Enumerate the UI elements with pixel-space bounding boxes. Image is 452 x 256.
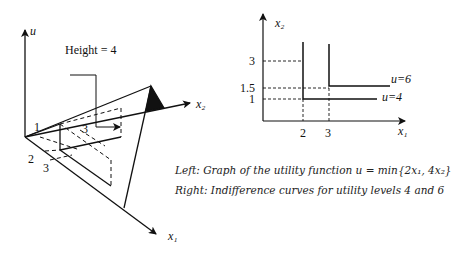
guide-lines — [263, 61, 329, 121]
ytick-1: 1 — [249, 92, 255, 106]
curve-u6-label: u=6 — [391, 72, 411, 86]
tick-2: 2 — [28, 152, 34, 166]
x1-label-right: x₁ — [397, 124, 408, 138]
xtick-3: 3 — [325, 126, 331, 140]
x1-axis-label: x₁ — [167, 229, 178, 243]
caption-right: Right: Indifference curves for utility l… — [175, 184, 444, 196]
level-x2-line — [60, 137, 121, 150]
x2-axis — [25, 103, 190, 137]
tick-3: 3 — [43, 161, 49, 175]
u-axis-label: u — [30, 24, 36, 38]
ridge-shaded-face — [146, 86, 164, 111]
x2-label-right: x₂ — [274, 16, 285, 30]
ytick-3: 3 — [249, 54, 255, 68]
indifference-plot — [263, 14, 405, 121]
caption-left: Left: Graph of the utility function u = … — [175, 164, 452, 176]
curve-u6 — [329, 44, 390, 86]
curve-u4-label: u=4 — [382, 90, 402, 104]
curve-u4 — [303, 42, 377, 99]
utility-3d-graph — [25, 30, 190, 234]
x2-axis-label: x₂ — [195, 97, 206, 111]
xtick-2: 2 — [300, 126, 306, 140]
inner-tick-3: 3 — [82, 122, 88, 136]
height-label: Height = 4 — [65, 43, 116, 57]
tick-1: 1 — [34, 120, 40, 134]
